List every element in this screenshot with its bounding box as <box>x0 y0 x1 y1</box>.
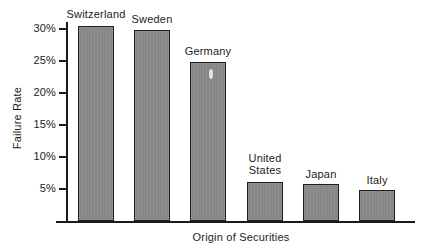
bar-switzerland[interactable] <box>78 26 114 221</box>
y-tick-mark-20 <box>59 92 67 94</box>
y-tick-label-15: 15% <box>10 118 56 130</box>
y-tick-mark-5 <box>59 188 67 190</box>
bar-label-united-states: United States <box>235 152 295 176</box>
bar-japan[interactable] <box>303 184 339 221</box>
y-tick-label-25: 25% <box>10 54 56 66</box>
y-tick-mark-10 <box>59 156 67 158</box>
y-tick-mark-25 <box>59 60 67 62</box>
bar-label-japan: Japan <box>291 168 351 180</box>
bar-united-states[interactable] <box>247 182 283 221</box>
y-tick-label-5: 5% <box>10 182 56 194</box>
bar-label-switzerland: Switzerland <box>62 8 130 20</box>
bar-label-germany: Germany <box>178 45 238 57</box>
bar-germany[interactable] <box>190 62 226 221</box>
y-tick-mark-15 <box>59 124 67 126</box>
y-tick-label-10: 10% <box>10 150 56 162</box>
bar-label-sweden: Sweden <box>122 13 182 25</box>
x-axis-label: Origin of Securities <box>66 231 416 243</box>
x-axis-line <box>56 221 415 223</box>
y-axis-line <box>66 22 68 222</box>
scan-artifact <box>209 69 213 79</box>
bar-label-italy: Italy <box>347 174 407 186</box>
y-tick-label-20: 20% <box>10 86 56 98</box>
bar-sweden[interactable] <box>134 30 170 221</box>
bar-chart: Failure Rate 30% 25% 20% 15% 10% 5% Swit… <box>0 0 426 252</box>
y-tick-label-30: 30% <box>10 22 56 34</box>
bar-italy[interactable] <box>359 190 395 221</box>
y-tick-mark-30 <box>59 28 67 30</box>
